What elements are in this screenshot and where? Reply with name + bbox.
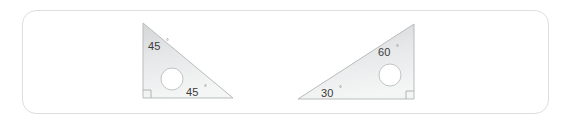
degree-symbol-bottom-left: ° xyxy=(339,85,342,92)
set-square-30-60: 60 ° 30 ° xyxy=(298,24,414,99)
screenshot-canvas: 45 ° 45 ° 60 ° 30 ° xyxy=(0,0,575,127)
figure-area: 45 ° 45 ° 60 ° 30 ° xyxy=(0,0,575,127)
angle-label-bottom-left: 30 xyxy=(321,87,334,99)
finger-hole-45 xyxy=(161,68,183,90)
degree-symbol-top-left: ° xyxy=(166,38,169,45)
angle-label-bottom-right: 45 xyxy=(186,86,199,98)
angle-label-top-left: 45 xyxy=(148,40,161,52)
triangle-30-60-body xyxy=(298,24,414,99)
degree-symbol-bottom-right: ° xyxy=(204,84,207,91)
finger-hole-30-60 xyxy=(379,64,401,86)
degree-symbol-top-right: ° xyxy=(396,44,399,51)
angle-label-top-right: 60 xyxy=(378,46,391,58)
set-square-45: 45 ° 45 ° xyxy=(143,23,233,98)
set-squares-illustration: 45 ° 45 ° 60 ° 30 ° xyxy=(0,0,575,127)
